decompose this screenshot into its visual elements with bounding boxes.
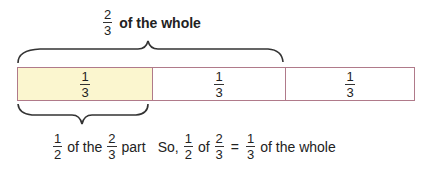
- bar-cell-2: 13: [152, 68, 285, 100]
- top-label: 2 3 of the whole: [100, 8, 201, 37]
- top-brace: [18, 41, 283, 63]
- fraction-two-thirds: 2 3: [103, 8, 112, 37]
- bar-cell-1: 13: [18, 68, 152, 100]
- top-label-text: of the whole: [119, 15, 201, 31]
- bar-cell-3: 13: [285, 68, 414, 100]
- fraction-bar: 13 13 13: [17, 67, 415, 101]
- bottom-brace: [18, 104, 148, 124]
- bottom-label: 12 of the 23 part So, 12 of 23 = 13 of t…: [50, 132, 336, 161]
